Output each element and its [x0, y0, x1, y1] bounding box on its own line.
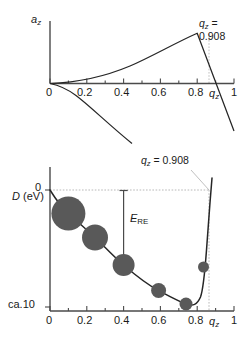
upper-qz-annotation: qz = 0.908 — [199, 18, 225, 42]
upper-xtick-0: 0 — [46, 87, 52, 99]
lower-xtick-1: 1 — [231, 315, 237, 327]
data-point — [151, 283, 166, 298]
lower-panel: D (eV) 0 ca.10 ERE qz = 0.908 0 0.2 0.4 … — [0, 150, 247, 352]
upper-xtick-0p2: 0.2 — [77, 87, 92, 99]
lower-y-ticks — [45, 190, 50, 307]
lower-x-ticks — [50, 306, 234, 311]
lower-xtick-0p8: 0.8 — [188, 315, 203, 327]
lower-xtick-0p4: 0.4 — [114, 315, 129, 327]
ere-label: ERE — [130, 213, 148, 226]
data-point — [82, 225, 108, 251]
data-point — [113, 254, 135, 276]
lower-qz-annotation: qz = 0.908 — [141, 155, 189, 168]
lower-annotation-leader — [191, 170, 209, 190]
lower-xtick-0p6: 0.6 — [151, 315, 166, 327]
lower-ytick-ca10: ca.10 — [8, 299, 35, 311]
lower-xtick-0: 0 — [46, 315, 52, 327]
figure-root: az 0 0.2 0.4 0.6 0.8 1 qz qz = 0.908 — [0, 0, 247, 352]
binding-energy-curve — [50, 178, 212, 305]
lower-xtick-0p2: 0.2 — [77, 315, 92, 327]
upper-y-axis-label: az — [31, 14, 41, 27]
lower-x-axis-label: qz — [209, 316, 219, 329]
upper-x-axis-label: qz — [209, 88, 219, 101]
data-point — [180, 298, 193, 311]
data-point — [51, 197, 85, 231]
upper-panel: az 0 0.2 0.4 0.6 0.8 1 qz qz = 0.908 — [0, 0, 247, 150]
upper-xtick-0p4: 0.4 — [114, 87, 129, 99]
upper-xtick-1: 1 — [231, 87, 237, 99]
data-point — [198, 262, 209, 273]
upper-xtick-0p6: 0.6 — [151, 87, 166, 99]
lower-ytick-0: 0 — [35, 182, 41, 194]
upper-xtick-0p8: 0.8 — [188, 87, 203, 99]
